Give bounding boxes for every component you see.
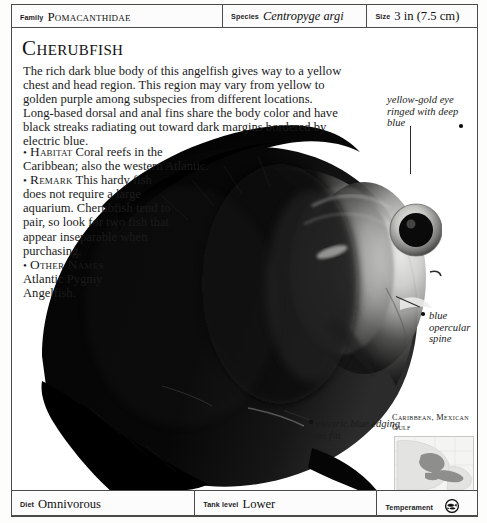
opercular-annotation-dot xyxy=(421,312,425,316)
header-size-value: 3 in (7.5 cm) xyxy=(394,9,459,24)
region-map-icon xyxy=(394,436,474,490)
other-names-bullet: • xyxy=(23,259,27,271)
footer-tank-level-label: Tank level xyxy=(203,500,238,509)
opercular-spine-annotation: blue opercular spine xyxy=(429,310,477,345)
eye-annotation-dot xyxy=(459,124,463,128)
intro-paragraph: The rich dark blue body of this angelfis… xyxy=(23,64,343,149)
eye-annotation-leader-line xyxy=(410,126,411,174)
two-fish-temperament-icon xyxy=(444,499,460,515)
header-species-value: Centropyge argi xyxy=(263,9,344,24)
distribution-map-inset: Caribbean, Mexican Gulf xyxy=(392,413,477,490)
eye-annotation: yellow-gold eye ringed with deep blue xyxy=(387,94,477,129)
header-size-cell: Size 3 in (7.5 cm) xyxy=(367,5,477,27)
header-family-cell: Family Pomacanthidae xyxy=(12,5,223,27)
header-info-bar: Family Pomacanthidae Species Centropyge … xyxy=(11,4,478,28)
header-family-label: Family xyxy=(20,13,43,22)
fact-habitat: • Habitat Coral reefs in the Caribbean; … xyxy=(23,145,219,173)
other-names-text: Atlantic Pygmy Angelfish. xyxy=(23,272,102,300)
eye-annotation-text: yellow-gold eye ringed with deep blue xyxy=(387,94,458,128)
page-body: Cherubfish The rich dark blue body of th… xyxy=(12,28,477,490)
remark-bullet: • xyxy=(23,174,27,186)
footer-diet-label: Diet xyxy=(20,500,34,509)
fin-edging-annotation: electric blue edging on fin xyxy=(316,418,402,441)
map-title: Caribbean, Mexican Gulf xyxy=(392,413,477,433)
footer-diet-cell: Diet Omnivorous xyxy=(12,491,195,515)
page-title: Cherubfish xyxy=(22,36,123,61)
habitat-bullet: • xyxy=(23,146,27,158)
habitat-key: Habitat xyxy=(30,144,72,159)
fish-encyclopedia-page: Family Pomacanthidae Species Centropyge … xyxy=(0,0,487,523)
header-size-label: Size xyxy=(375,12,390,21)
other-names-key: Other Names xyxy=(30,257,103,272)
footer-info-bar: Diet Omnivorous Tank level Lower Tempera… xyxy=(11,490,478,516)
footer-temperament-cell: Temperament xyxy=(377,491,477,515)
remark-key: Remark xyxy=(30,172,73,187)
footer-tank-level-value: Lower xyxy=(242,497,275,512)
fact-remark: • Remark This hardy fish does not requir… xyxy=(23,173,173,258)
footer-diet-value: Omnivorous xyxy=(38,497,101,512)
header-species-label: Species xyxy=(231,12,259,21)
opercular-annotation-text: blue opercular spine xyxy=(429,310,470,344)
fin-edging-annotation-text: electric blue edging on fin xyxy=(316,418,400,441)
footer-tank-level-cell: Tank level Lower xyxy=(195,491,377,515)
fact-list: • Habitat Coral reefs in the Caribbean; … xyxy=(23,145,219,300)
header-family-value: Pomacanthidae xyxy=(47,9,130,25)
footer-temperament-label: Temperament xyxy=(385,503,433,512)
header-species-cell: Species Centropyge argi xyxy=(223,5,367,27)
fact-other-names: • Other Names Atlantic Pygmy Angelfish. xyxy=(23,258,141,300)
